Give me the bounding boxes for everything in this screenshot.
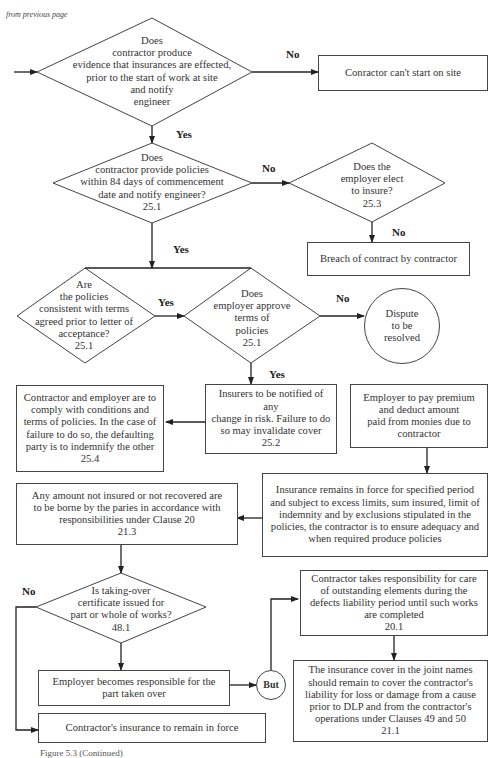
edge-label-d5-no: No xyxy=(336,292,349,304)
edge-label-d3-no: No xyxy=(392,226,405,238)
edge-label-d6-no: No xyxy=(22,585,35,597)
process-cant-start: Conractor can't start on site xyxy=(318,55,488,91)
edge-label-d2-no: No xyxy=(262,162,275,174)
process-breach: Breach of contract by contractor xyxy=(307,242,470,276)
decision-d3: Does the employer elect to insure? 25.3 xyxy=(322,161,422,210)
decision-d6: Is taking-over certificate issued for pa… xyxy=(66,585,176,634)
terminal-but: But xyxy=(256,670,286,700)
edge-label-d1-no: No xyxy=(286,48,299,60)
figure-caption: Figure 5.3 (Continued) xyxy=(40,748,123,758)
process-employer-responsible: Employer becomes responsible for the par… xyxy=(38,670,230,706)
continuation-note: from previous page xyxy=(6,10,68,19)
process-outstanding: Contractor takes responsibility for care… xyxy=(300,570,488,636)
decision-d2: Does contractor provide policies within … xyxy=(72,152,232,213)
terminal-dispute: Dispute to be resolved xyxy=(364,288,440,364)
edge-label-d5-yes: Yes xyxy=(269,368,285,380)
process-insurers: Insurers to be notified of any change in… xyxy=(205,384,337,454)
process-premium: Employer to pay premium and deduct amoun… xyxy=(350,384,488,448)
process-remain-in-force: Contractor's insurance to remain in forc… xyxy=(38,713,266,743)
decision-d5: Does employer approve terms of policies … xyxy=(204,288,300,349)
process-remains: Insurance remains in force for specified… xyxy=(262,473,488,557)
edge-label-d2-yes: Yes xyxy=(173,243,189,255)
decision-d4: Are the policies consistent with terms a… xyxy=(22,279,146,352)
edge-label-d1-yes: Yes xyxy=(176,128,192,140)
decision-d1: Does contractor produce evidence that in… xyxy=(62,35,242,108)
process-joint-names: The insurance cover in the joint names s… xyxy=(293,660,488,742)
edge-label-d4-yes: Yes xyxy=(158,296,174,308)
process-comply: Contractor and employer are to comply wi… xyxy=(16,385,164,472)
process-amount: Any amount not insured or not recovered … xyxy=(16,483,238,545)
